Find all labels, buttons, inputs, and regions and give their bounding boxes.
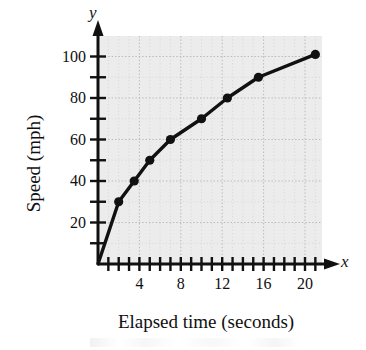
speed-vs-time-figure: y x Speed (mph) Elapsed time (seconds) 4… xyxy=(0,0,366,350)
data-point-marker xyxy=(311,50,320,59)
data-point-marker xyxy=(197,114,206,123)
x-tick-label: 4 xyxy=(119,276,159,292)
x-axis-letter: x xyxy=(341,253,349,270)
y-axis-arrowhead xyxy=(93,20,104,36)
data-point-marker xyxy=(145,156,154,165)
y-tick-label: 40 xyxy=(40,173,86,189)
y-tick-label: 60 xyxy=(40,132,86,148)
x-tick-label: 12 xyxy=(202,276,242,292)
data-point-marker xyxy=(114,197,123,206)
x-tick-label: 8 xyxy=(161,276,201,292)
y-tick-label: 20 xyxy=(40,215,86,231)
data-point-marker xyxy=(166,135,175,144)
data-point-marker xyxy=(254,73,263,82)
y-tick-label: 100 xyxy=(40,49,86,65)
data-point-marker xyxy=(223,93,232,102)
x-tick-label: 16 xyxy=(244,276,284,292)
y-tick-label: 80 xyxy=(40,90,86,106)
x-axis-title: Elapsed time (seconds) xyxy=(76,312,336,331)
y-axis-letter: y xyxy=(89,4,97,21)
x-axis-arrowhead xyxy=(324,259,340,270)
plot-background xyxy=(98,36,322,264)
x-tick-label: 20 xyxy=(285,276,325,292)
data-point-marker xyxy=(130,176,139,185)
